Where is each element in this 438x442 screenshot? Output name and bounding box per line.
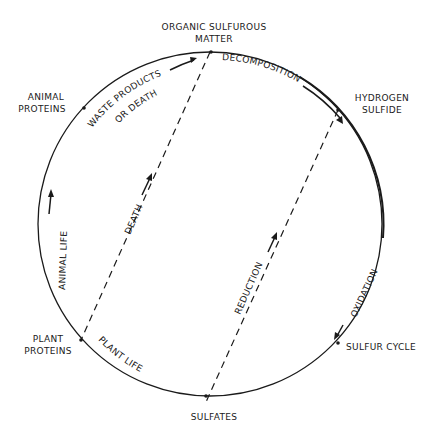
label-oxidation: OXIDATION	[349, 267, 380, 319]
waste-arrow	[170, 60, 194, 70]
reduction-arrowhead	[271, 232, 277, 240]
death-arrowhead	[146, 173, 152, 181]
node-sulfates	[204, 394, 208, 398]
label-plant-1: PLANT	[33, 334, 64, 344]
node-animal	[82, 106, 86, 110]
label-animal-1: ANIMAL	[28, 92, 64, 102]
label-plant-life: PLANT LIFE	[97, 334, 145, 374]
node-plant	[79, 338, 83, 342]
decomposition-arrow	[303, 86, 340, 118]
label-sulfur-cycle: SULFUR CYCLE	[346, 342, 416, 352]
label-organic-2: MATTER	[195, 34, 233, 44]
reduction-arrow	[268, 237, 275, 252]
cycle-circle	[38, 52, 382, 396]
sulfur-cycle-diagram: ORGANIC SULFUROUS MATTER HYDROGEN SULFID…	[0, 0, 438, 442]
label-animal-2: PROTEINS	[18, 104, 65, 114]
label-hydrogen-1: HYDROGEN	[355, 93, 409, 103]
label-organic-1: ORGANIC SULFUROUS	[162, 22, 267, 32]
label-death: DEATH	[123, 203, 145, 236]
label-sulfates: SULFATES	[191, 412, 237, 422]
node-hydrogen	[336, 108, 340, 112]
node-organic	[209, 50, 213, 54]
label-plant-2: PROTEINS	[24, 346, 71, 356]
label-hydrogen-2: SULFIDE	[362, 105, 402, 115]
node-sulfur-cycle	[336, 341, 340, 345]
death-arrow	[142, 178, 150, 195]
label-decomposition: DECOMPOSITION	[222, 52, 303, 84]
waste-arrowhead	[190, 57, 197, 63]
label-animal-life: ANIMAL LIFE	[57, 231, 69, 291]
animal-life-arrowhead	[48, 189, 54, 197]
